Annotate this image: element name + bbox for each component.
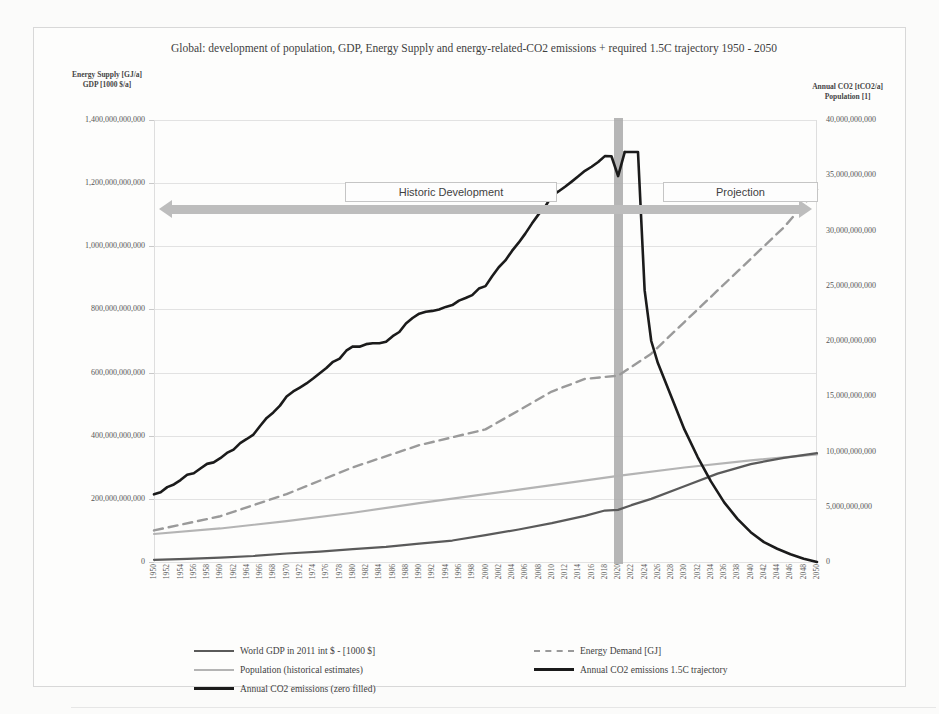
x-axis-tick-label: 1974 <box>309 564 316 579</box>
chart-legend: World GDP in 2011 int $ - [1000 $]Popula… <box>194 645 894 707</box>
x-axis-tick-label: 2018 <box>601 564 608 579</box>
x-axis-tick-label: 2024 <box>641 564 648 579</box>
x-axis-tick-label: 1958 <box>203 564 210 579</box>
x-axis-tick-label: 1952 <box>163 564 170 579</box>
x-axis-tick-label: 2000 <box>482 564 489 579</box>
x-axis-tick-label: 1966 <box>256 564 263 579</box>
x-axis-tick-label: 2004 <box>508 564 515 579</box>
x-axis-tick-label: 2034 <box>707 564 714 579</box>
x-axis-tick-label: 1978 <box>336 564 343 579</box>
gridline <box>154 562 817 563</box>
left-axis-tick-label: 400,000,000,000 <box>91 432 145 440</box>
x-axis-ticks: 1950195219541956195819601962196419661968… <box>154 564 817 610</box>
x-axis-tick-label: 1980 <box>349 564 356 579</box>
legend-item[interactable]: Annual CO2 emissions 1.5C trajectory <box>534 664 728 676</box>
series-world-gdp <box>154 453 817 560</box>
x-axis-tick-label: 1996 <box>455 564 462 579</box>
right-axis-tick-label: 25,000,000,000 <box>826 282 876 290</box>
left-axis-unit-line1: Energy Supply [GJ/a] <box>72 70 142 80</box>
right-axis-tick-label: 35,000,000,000 <box>826 171 876 179</box>
legend-item-label: Population (historical estimates) <box>240 665 363 675</box>
x-axis-tick-label: 2022 <box>627 564 634 579</box>
series-energy-demand <box>154 189 817 530</box>
x-axis-tick-label: 1972 <box>296 564 303 579</box>
x-axis-tick-label: 2036 <box>720 564 727 579</box>
x-axis-tick-label: 1994 <box>442 564 449 579</box>
right-axis-unit-label: Annual CO2 [tCO2/a] Population [1] <box>812 82 883 102</box>
left-axis-tick-label: 600,000,000,000 <box>91 369 145 377</box>
x-axis-tick-label: 2044 <box>773 564 780 579</box>
x-axis-tick-label: 1976 <box>322 564 329 579</box>
projection-arrow-head-right <box>799 200 812 218</box>
x-axis-tick-label: 2032 <box>694 564 701 579</box>
right-axis-unit-line2: Population [1] <box>812 92 883 102</box>
chart-frame: Global: development of population, GDP, … <box>33 27 906 687</box>
right-axis-unit-line1: Annual CO2 [tCO2/a] <box>812 82 883 92</box>
series-co2-15c-trajectory <box>625 152 817 562</box>
x-axis-tick-label: 1990 <box>415 564 422 579</box>
projection-arrow-shaft <box>644 205 799 214</box>
historic-development-label: Historic Development <box>345 182 557 202</box>
left-axis-unit-label: Energy Supply [GJ/a] GDP [1000 $/a] <box>72 70 142 90</box>
right-axis-tick-label: 5,000,000,000 <box>826 503 872 511</box>
left-axis-tick-label: 0 <box>141 558 145 566</box>
legend-swatch-icon <box>194 687 234 690</box>
x-axis-tick-label: 2050 <box>813 564 820 579</box>
right-axis-tick-label: 10,000,000,000 <box>826 448 876 456</box>
x-axis-tick-label: 2042 <box>760 564 767 579</box>
projection-label: Projection <box>663 182 818 202</box>
legend-divider <box>71 707 936 708</box>
x-axis-tick-label: 1998 <box>468 564 475 579</box>
legend-item[interactable]: Energy Demand [GJ] <box>534 645 661 657</box>
x-axis-tick-label: 2026 <box>654 564 661 579</box>
legend-swatch-icon <box>194 650 234 652</box>
left-axis-unit-line2: GDP [1000 $/a] <box>72 80 142 90</box>
right-axis-tick-label: 20,000,000,000 <box>826 337 876 345</box>
legend-item[interactable]: World GDP in 2011 int $ - [1000 $] <box>194 645 375 657</box>
historic-arrow-head-left <box>159 200 172 218</box>
right-axis-tick-label: 30,000,000,000 <box>826 227 876 235</box>
x-axis-tick-label: 1964 <box>243 564 250 579</box>
left-axis-tick-label: 1,200,000,000,000 <box>85 179 145 187</box>
x-axis-tick-label: 1988 <box>402 564 409 579</box>
historic-arrow-shaft <box>172 205 644 214</box>
left-axis-tickmark <box>149 562 154 563</box>
plot-inner: 0200,000,000,000400,000,000,000600,000,0… <box>154 120 817 562</box>
x-axis-tick-label: 1992 <box>428 564 435 579</box>
legend-item-label: Annual CO2 emissions (zero filled) <box>240 684 376 694</box>
legend-swatch-icon <box>194 669 234 671</box>
x-axis-tick-label: 2012 <box>561 564 568 579</box>
x-axis-tick-label: 2008 <box>535 564 542 579</box>
right-axis-tick-label: 40,000,000,000 <box>826 116 876 124</box>
x-axis-tick-label: 1960 <box>216 564 223 579</box>
x-axis-tick-label: 2048 <box>800 564 807 579</box>
legend-item-label: World GDP in 2011 int $ - [1000 $] <box>240 646 375 656</box>
x-axis-tick-label: 2010 <box>548 564 555 579</box>
x-axis-tick-label: 1956 <box>190 564 197 579</box>
legend-swatch-icon <box>534 650 574 652</box>
left-axis-tick-label: 200,000,000,000 <box>91 495 145 503</box>
legend-item[interactable]: Population (historical estimates) <box>194 664 363 676</box>
x-axis-tick-label: 1962 <box>230 564 237 579</box>
legend-item[interactable]: Annual CO2 emissions (zero filled) <box>194 683 376 695</box>
right-axis-tick-label: 0 <box>826 558 830 566</box>
left-axis-tick-label: 800,000,000,000 <box>91 305 145 313</box>
x-axis-tick-label: 1982 <box>362 564 369 579</box>
x-axis-tick-label: 2016 <box>588 564 595 579</box>
x-axis-tick-label: 1968 <box>269 564 276 579</box>
series-annual-co2 <box>154 152 625 494</box>
x-axis-tick-label: 2046 <box>786 564 793 579</box>
x-axis-tick-label: 1986 <box>389 564 396 579</box>
x-axis-tick-label: 1954 <box>177 564 184 579</box>
legend-swatch-icon <box>534 668 574 671</box>
x-axis-tick-label: 2040 <box>747 564 754 579</box>
legend-item-label: Annual CO2 emissions 1.5C trajectory <box>580 665 728 675</box>
x-axis-tick-label: 1950 <box>150 564 157 579</box>
x-axis-tick-label: 2028 <box>667 564 674 579</box>
left-axis-tick-label: 1,000,000,000,000 <box>85 242 145 250</box>
right-axis-tick-label: 15,000,000,000 <box>826 392 876 400</box>
plot-area: 0200,000,000,000400,000,000,000600,000,0… <box>154 120 817 562</box>
x-axis-tick-label: 2030 <box>680 564 687 579</box>
x-axis-tick-label: 2020 <box>614 564 621 579</box>
x-axis-tick-label: 2002 <box>495 564 502 579</box>
